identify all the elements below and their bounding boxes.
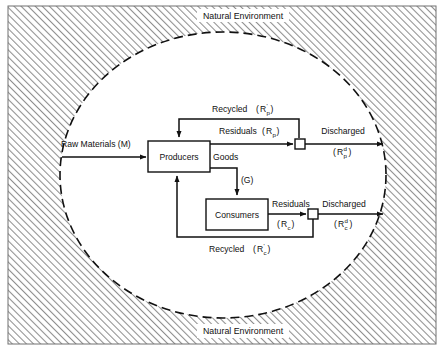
label-residuals-producers-word: Residuals xyxy=(219,126,257,136)
label-recycled-consumers-word: Recycled xyxy=(209,244,245,254)
label-discharged-producers-word: Discharged xyxy=(321,126,365,136)
label-discharged-consumers-closeparen: ) xyxy=(350,219,353,229)
label-residuals-consumers-base: R xyxy=(281,219,287,229)
label-discharged-consumers-sub: c xyxy=(345,224,348,231)
label-raw-materials: Raw Materials (M) xyxy=(61,139,131,149)
natural-environment-bottom-text: Natural Environment xyxy=(203,326,284,336)
label-residuals-consumers-sub: c xyxy=(288,224,291,231)
label-discharged-consumers-word: Discharged xyxy=(322,199,366,209)
label-residuals-consumers-openparen: ( xyxy=(277,219,280,229)
label-residuals-producers-closeparen: ) xyxy=(277,126,280,136)
label-residuals-producers-base: R xyxy=(266,126,272,136)
label-discharged-consumers-base: R xyxy=(338,219,344,229)
node-producers-label: Producers xyxy=(159,152,198,162)
label-recycled-producers-closeparen: ) xyxy=(271,104,274,114)
natural-environment-top-text: Natural Environment xyxy=(203,11,284,21)
label-recycled-consumers: Recycled ( R ' c ) xyxy=(209,242,271,256)
label-discharged-producers-openparen: ( xyxy=(333,147,336,157)
label-recycled-consumers-sub: c xyxy=(264,249,267,256)
label-residuals-producers-openparen: ( xyxy=(262,126,265,136)
label-recycled-producers-prime: ' xyxy=(267,102,268,109)
junction-producers-node xyxy=(295,139,305,149)
label-discharged-consumers-openparen: ( xyxy=(334,219,337,229)
label-goods: Goods xyxy=(213,152,238,162)
label-natural-environment-bottom: Natural Environment xyxy=(197,324,289,338)
materials-balance-diagram: Natural Environment Natural Environment … xyxy=(0,0,446,355)
label-discharged-producers-sub: p xyxy=(344,152,348,159)
diagram-canvas: Natural Environment Natural Environment … xyxy=(0,0,446,355)
economy-boundary-ellipse xyxy=(60,32,386,318)
label-residuals-consumers-closeparen: ) xyxy=(292,219,295,229)
label-recycled-producers-word: Recycled xyxy=(212,104,248,114)
label-recycled-producers-openparen: ( xyxy=(256,104,259,114)
label-goods-symbol: (G) xyxy=(241,175,254,185)
node-consumers-label: Consumers xyxy=(215,210,259,220)
label-recycled-producers-base: R xyxy=(260,104,266,114)
label-residuals-producers: Residuals ( R p ) xyxy=(219,126,280,138)
label-residuals-consumers-word: Residuals xyxy=(272,199,310,209)
junction-consumers-node xyxy=(308,209,318,219)
label-discharged-producers-base: R xyxy=(337,147,343,157)
label-recycled-consumers-prime: ' xyxy=(264,242,265,249)
label-recycled-producers: Recycled ( R ' p ) xyxy=(212,102,274,116)
label-recycled-consumers-openparen: ( xyxy=(253,244,256,254)
label-natural-environment-top: Natural Environment xyxy=(197,9,289,22)
label-recycled-consumers-base: R xyxy=(257,244,263,254)
label-discharged-producers-closeparen: ) xyxy=(349,147,352,157)
label-recycled-consumers-closeparen: ) xyxy=(268,244,271,254)
